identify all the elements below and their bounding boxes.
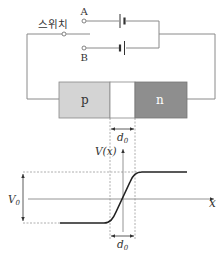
terminal-a-label: A xyxy=(80,6,89,17)
circuit: 스위치 A B p n xyxy=(27,6,215,118)
terminal-b[interactable] xyxy=(82,46,86,50)
pn-junction-diagram: 스위치 A B p n d0 x V(x) V0 d0 xyxy=(0,0,224,254)
p-region-label: p xyxy=(81,93,89,107)
battery-a-icon xyxy=(120,14,125,28)
battery-b-icon xyxy=(120,41,125,55)
graph-width-label: d0 xyxy=(117,238,129,252)
n-region-label: n xyxy=(156,93,164,107)
x-axis-label: x xyxy=(209,196,216,210)
y-axis-label: V(x) xyxy=(95,145,117,157)
terminal-b-label: B xyxy=(81,52,88,63)
switch-label: 스위치 xyxy=(38,18,68,30)
v0-label: V0 xyxy=(8,193,21,207)
potential-graph: x V(x) V0 d0 xyxy=(8,145,216,252)
left-wire xyxy=(27,34,62,99)
terminal-a[interactable] xyxy=(82,19,86,23)
depletion-width-label: d0 xyxy=(117,131,129,145)
potential-curve xyxy=(60,172,187,223)
switch-pivot[interactable] xyxy=(62,32,66,36)
depletion-region xyxy=(110,82,135,118)
